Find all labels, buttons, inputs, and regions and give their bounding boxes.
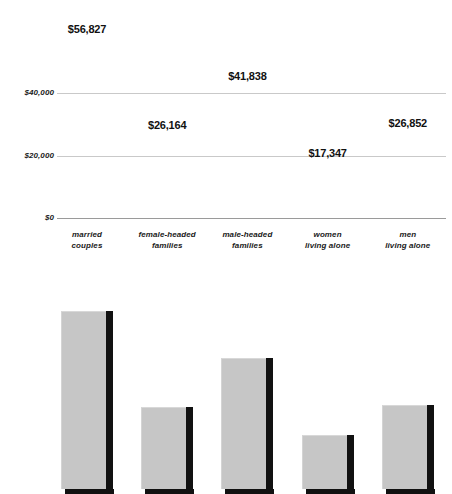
bar-side-face [347,438,354,494]
bar-side-face [106,314,113,494]
y-axis-tick-label: $40,000 [2,88,54,97]
bar-side-face [186,410,193,494]
bar-front-face [61,311,106,489]
axis-baseline [57,218,446,219]
bar-value-label: $26,852 [368,117,448,129]
bar-side-face [427,408,434,494]
bar-top-face [426,405,434,409]
bar-top-face [185,407,193,411]
y-axis-tick-label: $20,000 [2,151,54,160]
bar-side-face [266,361,273,494]
bar-value-label: $41,838 [207,70,287,82]
bar-front-face [302,435,347,489]
bar-top-face [346,435,354,439]
bar-value-label: $26,164 [127,119,207,131]
category-label-line1: men [399,230,416,239]
y-axis-tick-label: $0 [2,213,54,222]
bar-value-label: $56,827 [47,23,127,35]
bar-front-face [221,358,266,489]
category-label-line1: female-headed [139,230,196,239]
x-axis-category-label: menliving alone [359,229,452,251]
category-label-line1: married [72,230,102,239]
category-label-line1: male-headed [222,230,272,239]
gridline [57,93,446,94]
bar-front-face [382,405,427,489]
category-label-line1: women [314,230,342,239]
bar-top-face [265,358,273,362]
bar-value-label: $17,347 [288,147,368,159]
gridline [57,156,446,157]
category-label-line2: living alone [359,240,452,251]
bar-top-face [105,311,113,315]
bar-front-face [141,407,186,489]
